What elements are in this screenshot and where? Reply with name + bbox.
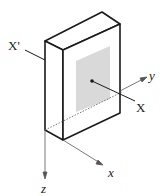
label-axis-y: y (147, 68, 155, 83)
y-axis (120, 77, 147, 91)
x-axis (63, 140, 103, 165)
box-diagram-svg: X' X y x z (0, 0, 164, 196)
z-axis (43, 130, 47, 179)
label-x-point: X (136, 100, 146, 115)
label-axis-z: z (40, 181, 46, 196)
label-axis-x: x (107, 165, 114, 180)
diagram: X' X y x z (0, 0, 164, 196)
x-prime-leader (25, 50, 45, 60)
label-x-prime: X' (8, 38, 20, 53)
